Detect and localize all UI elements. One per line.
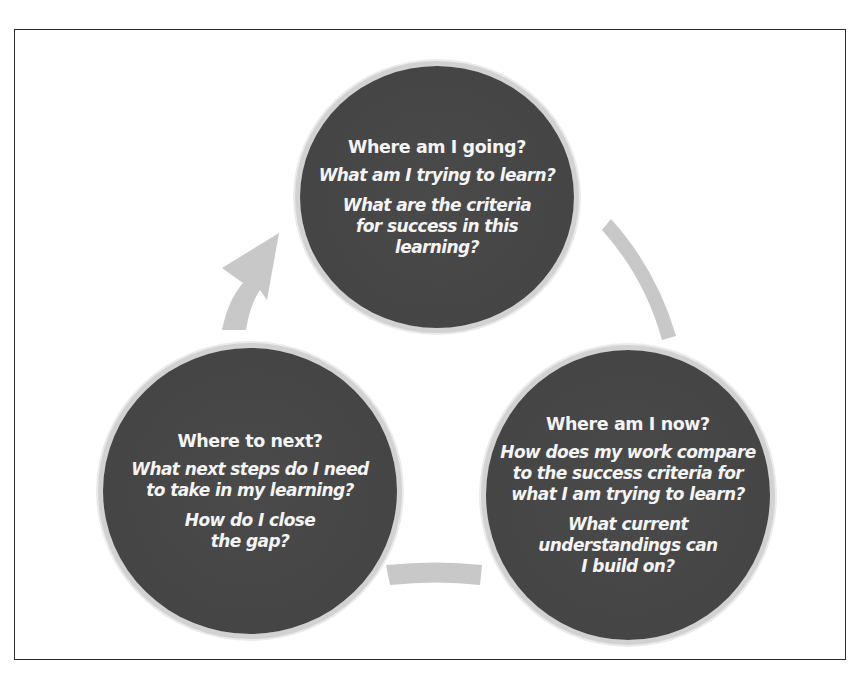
node-heading: Where am I going? bbox=[348, 137, 526, 157]
node-heading: Where to next? bbox=[177, 431, 322, 451]
node-question: What am I trying to learn? bbox=[319, 165, 556, 186]
node-question: What next steps do I need to take in my … bbox=[131, 459, 368, 501]
arc-now-to-next bbox=[386, 563, 482, 586]
node-question: How does my work compare to the success … bbox=[500, 442, 755, 505]
node-question: What are the criteria for success in thi… bbox=[343, 195, 531, 258]
arrow-next-to-going-icon bbox=[222, 233, 279, 330]
node-where-to-next: Where to next? What next steps do I need… bbox=[103, 348, 397, 634]
arc-going-to-now bbox=[602, 219, 676, 340]
node-question: What current understandings can I build … bbox=[538, 514, 717, 577]
node-heading: Where am I now? bbox=[546, 414, 710, 434]
node-where-am-i-going: Where am I going? What am I trying to le… bbox=[300, 66, 574, 328]
node-where-am-i-now: Where am I now? How does my work compare… bbox=[486, 350, 770, 640]
node-question: How do I close the gap? bbox=[185, 510, 315, 552]
